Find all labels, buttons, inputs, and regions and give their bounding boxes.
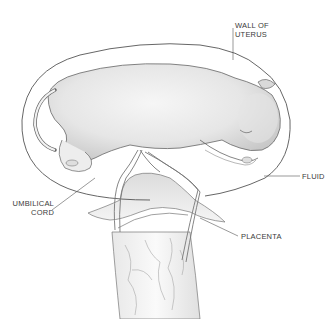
label-fluid-line1: FLUID	[302, 172, 325, 181]
label-umbilical-cord: UMBILICAL CORD	[12, 199, 54, 217]
label-cord-line2: CORD	[12, 208, 54, 217]
label-cord-line1: UMBILICAL	[12, 199, 54, 208]
label-fluid: FLUID	[302, 172, 325, 181]
fetus-ear	[258, 79, 275, 88]
label-wall-line2: UTERUS	[235, 30, 269, 39]
illustration	[0, 0, 328, 319]
label-placenta-line1: PLACENTA	[241, 232, 282, 241]
uterus-diagram: WALL OF UTERUS FLUID UMBILICAL CORD PLAC…	[0, 0, 328, 319]
leader-cord	[52, 178, 95, 210]
label-wall-of-uterus: WALL OF UTERUS	[235, 21, 269, 39]
label-wall-line1: WALL OF	[235, 21, 269, 30]
label-placenta: PLACENTA	[241, 232, 282, 241]
